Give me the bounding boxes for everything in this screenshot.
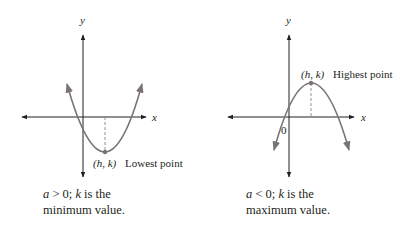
right-vertex-label: (h, k) Highest point: [301, 69, 393, 80]
caption-relation: > 0;: [49, 187, 75, 201]
left-x-axis-label: x: [152, 112, 157, 123]
right-vertex-description: Highest point: [333, 68, 393, 80]
right-y-axis-label: y: [286, 15, 291, 26]
left-parabola-curve: [67, 84, 142, 152]
caption-rest: is the: [284, 187, 314, 201]
left-graph: [22, 35, 146, 177]
left-vertex-point: [103, 150, 107, 154]
left-vertex-coords: (h, k): [93, 157, 116, 169]
left-caption-line2: minimum value.: [43, 202, 125, 218]
right-vertex-coords: (h, k): [301, 68, 324, 80]
right-vertex-point: [309, 81, 313, 85]
caption-relation: < 0;: [252, 187, 278, 201]
left-y-axis-label: y: [80, 15, 85, 26]
caption-rest: is the: [81, 187, 111, 201]
right-caption: a < 0; k is the maximum value.: [246, 186, 330, 218]
right-x-axis-label: x: [361, 112, 366, 123]
left-vertex-label: (h, k) Lowest point: [93, 158, 183, 169]
left-vertex-description: Lowest point: [125, 157, 183, 169]
left-caption: a > 0; k is the minimum value.: [43, 186, 125, 218]
right-graph: [228, 35, 354, 177]
right-caption-line2: maximum value.: [246, 202, 330, 218]
left-caption-line1: a > 0; k is the: [43, 186, 125, 202]
right-origin-label: 0: [281, 125, 287, 136]
right-caption-line1: a < 0; k is the: [246, 186, 330, 202]
